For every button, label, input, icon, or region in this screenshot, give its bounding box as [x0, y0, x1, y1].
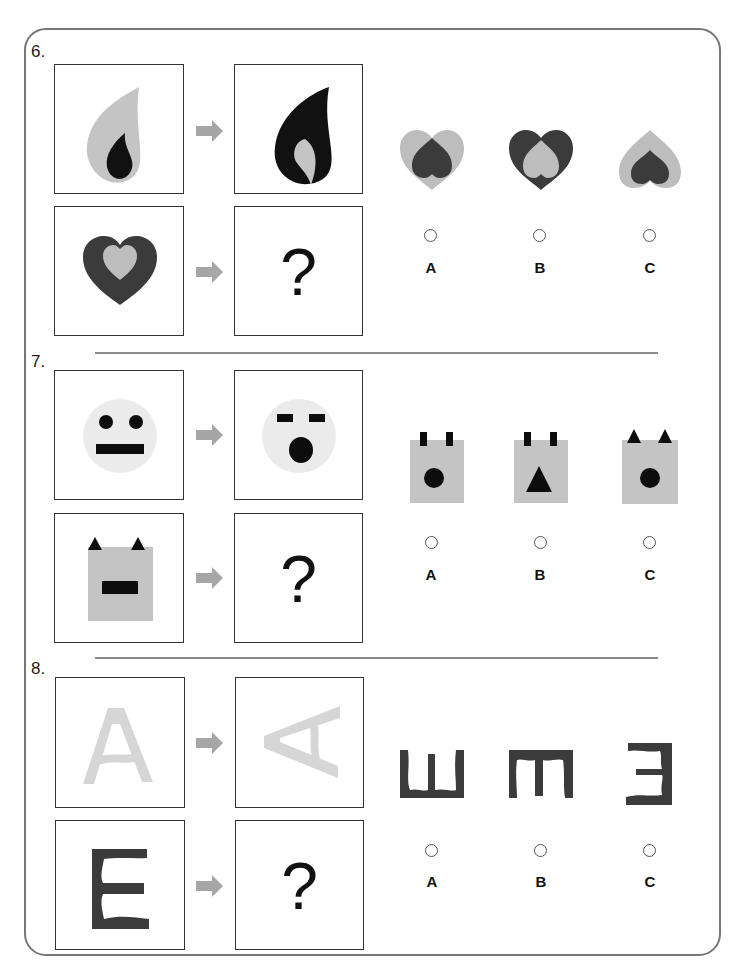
option-c-radio[interactable]: [643, 844, 656, 857]
example-to-box: [234, 370, 363, 500]
option-a-figure: [398, 128, 466, 192]
option-a-label: A: [422, 873, 442, 890]
example-to-box: [235, 677, 364, 808]
question-from-box: [55, 820, 185, 950]
neutral-face-icon: [55, 371, 185, 501]
option-b-label: B: [530, 259, 550, 276]
option-b-radio[interactable]: [534, 844, 547, 857]
option-a-figure: [408, 430, 466, 504]
arrow-right-icon: [196, 120, 224, 142]
question-mark: ?: [235, 239, 362, 305]
option-c-figure: [620, 428, 680, 504]
arrow-right-icon: [196, 424, 224, 446]
arrow-right-icon: [196, 732, 224, 754]
option-c-label: C: [640, 566, 660, 583]
option-c-label: C: [640, 259, 660, 276]
teardrop-light-icon: [55, 65, 185, 195]
teardrop-dark-icon: [235, 65, 364, 195]
square-face-icon: [55, 514, 185, 644]
option-a-label: A: [421, 259, 441, 276]
section-divider: [95, 657, 658, 659]
option-c-radio[interactable]: [643, 536, 656, 549]
example-from-box: [55, 677, 185, 808]
option-b-radio[interactable]: [533, 229, 546, 242]
answer-placeholder-box: ?: [234, 206, 363, 336]
letter-e-dark-icon: [56, 821, 186, 951]
question-from-box: [54, 206, 184, 336]
answer-placeholder-box: ?: [234, 513, 363, 643]
letter-a-rotated-icon: [236, 678, 365, 809]
option-b-figure: [512, 430, 570, 504]
question-number: 6.: [31, 42, 45, 62]
option-b-figure: [507, 748, 575, 802]
example-from-box: [54, 370, 184, 500]
option-b-figure: [507, 128, 575, 192]
question-from-box: [54, 513, 184, 643]
question-number: 7.: [31, 352, 45, 372]
option-a-figure: [398, 748, 468, 802]
example-to-box: [234, 64, 363, 194]
option-b-radio[interactable]: [534, 536, 547, 549]
option-a-radio[interactable]: [425, 844, 438, 857]
option-a-radio[interactable]: [424, 229, 437, 242]
arrow-right-icon: [196, 875, 224, 897]
letter-a-light-icon: [56, 678, 186, 809]
option-c-figure: [615, 128, 685, 192]
question-number: 8.: [31, 659, 45, 679]
option-c-radio[interactable]: [643, 229, 656, 242]
option-b-label: B: [531, 873, 551, 890]
arrow-right-icon: [196, 261, 224, 283]
question-mark: ?: [236, 853, 363, 919]
example-from-box: [54, 64, 184, 194]
option-c-figure: [626, 741, 676, 807]
option-a-radio[interactable]: [425, 536, 438, 549]
option-a-label: A: [421, 566, 441, 583]
heart-dark-icon: [55, 207, 185, 337]
question-mark: ?: [235, 546, 362, 612]
answer-placeholder-box: ?: [235, 820, 364, 950]
arrow-right-icon: [196, 567, 224, 589]
section-divider: [95, 352, 658, 354]
option-b-label: B: [530, 566, 550, 583]
option-c-label: C: [640, 873, 660, 890]
surprised-face-icon: [235, 371, 364, 501]
